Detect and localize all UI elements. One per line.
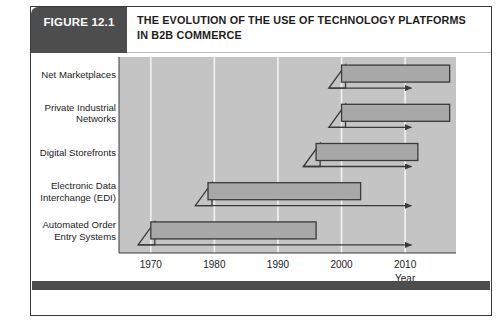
category-label-line: Net Marketplaces (16, 69, 116, 81)
category-label-line: Networks (16, 113, 116, 125)
category-label-line: Automated Order (16, 219, 116, 231)
bar-segment (316, 144, 418, 161)
category-label-line: Private Industrial (16, 102, 116, 114)
category-label: Private IndustrialNetworks (16, 102, 116, 125)
x-axis-tick-label: 2000 (319, 259, 365, 270)
figure-number-tab: FIGURE 12.1 (31, 7, 127, 53)
figure-header: FIGURE 12.1 THE EVOLUTION OF THE USE OF … (31, 7, 491, 53)
figure-title-line-1: THE EVOLUTION OF THE USE OF TECHNOLOGY P… (137, 14, 466, 26)
category-label-line: Interchange (EDI) (16, 192, 116, 204)
figure-number-label: FIGURE 12.1 (31, 16, 127, 28)
chart-area: Net MarketplacesPrivate IndustrialNetwor… (31, 53, 491, 273)
bar-segment (342, 65, 450, 82)
bar-segment (208, 183, 361, 200)
figure-card: FIGURE 12.1 THE EVOLUTION OF THE USE OF … (30, 6, 492, 316)
bar-segment (151, 222, 316, 239)
chart-svg (31, 53, 491, 293)
figure-title: THE EVOLUTION OF THE USE OF TECHNOLOGY P… (137, 13, 487, 42)
x-axis-tick-label: 1970 (128, 259, 174, 270)
category-label: Digital Storefronts (16, 147, 116, 159)
x-axis-tick-label: 1980 (191, 259, 237, 270)
figure-container: FIGURE 12.1 THE EVOLUTION OF THE USE OF … (0, 0, 503, 323)
figure-footer-rule (32, 281, 490, 290)
category-label: Net Marketplaces (16, 69, 116, 81)
bar-segment (342, 104, 450, 121)
category-label-line: Digital Storefronts (16, 147, 116, 159)
category-label: Automated OrderEntry Systems (16, 219, 116, 242)
figure-title-line-2: IN B2B COMMERCE (137, 28, 487, 43)
category-label-line: Electronic Data (16, 180, 116, 192)
x-axis-tick-label: 1990 (255, 259, 301, 270)
category-label-line: Entry Systems (16, 231, 116, 243)
x-axis-tick-label: 2010 (382, 259, 428, 270)
category-label: Electronic DataInterchange (EDI) (16, 180, 116, 203)
